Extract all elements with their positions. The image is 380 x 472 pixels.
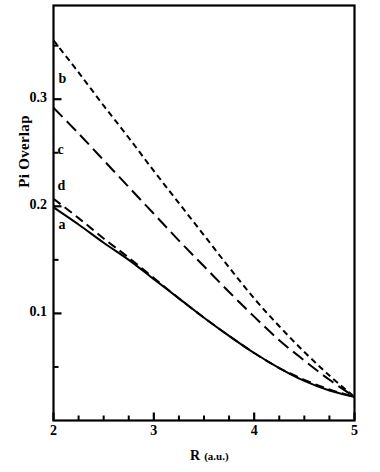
series-label-a: a <box>59 218 66 232</box>
data-curves <box>54 40 355 397</box>
x-tick-label: 4 <box>242 424 266 438</box>
plot-frame <box>54 6 355 421</box>
curve-a <box>54 207 355 397</box>
x-tick-label: 5 <box>343 424 367 438</box>
x-axis-title: R (a.u.) <box>190 446 360 464</box>
series-label-d: d <box>58 179 66 193</box>
x-tick-label: 2 <box>42 424 66 438</box>
y-axis-tick-labels: 0.10.20.3 <box>0 0 47 472</box>
x-axis-title-main: R <box>190 448 200 463</box>
axes <box>54 6 355 421</box>
x-tick-label: 3 <box>142 424 166 438</box>
curve-b <box>54 40 355 397</box>
y-tick-label: 0.3 <box>30 91 48 105</box>
y-tick-label: 0.1 <box>30 305 48 319</box>
plot-area <box>0 0 380 472</box>
x-axis-tick-labels: 2345 <box>0 424 380 448</box>
y-tick-label: 0.2 <box>30 198 48 212</box>
curve-d <box>54 199 355 397</box>
chart-figure: Pi Overlap 0.10.20.3 bcda 2345 R (a.u.) <box>0 0 380 472</box>
series-label-b: b <box>59 72 67 86</box>
curve-c <box>54 108 355 397</box>
x-axis-title-unit: (a.u.) <box>204 450 228 462</box>
series-label-c: c <box>58 143 64 157</box>
